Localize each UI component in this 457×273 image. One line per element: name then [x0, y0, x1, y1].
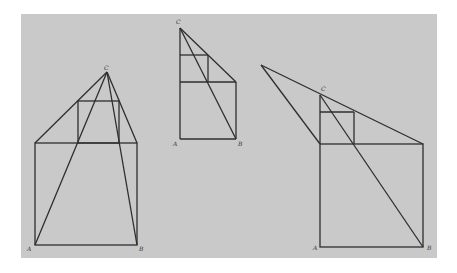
right-line-c-b	[320, 95, 423, 247]
left-figure: C A B	[26, 64, 144, 252]
left-label-a: A	[26, 245, 32, 252]
left-line-c-bigtl	[35, 72, 107, 143]
left-label-b: B	[138, 245, 144, 252]
middle-figure: C A B	[172, 18, 243, 147]
middle-label-a: A	[172, 140, 178, 147]
middle-label-c: C	[176, 18, 181, 25]
right-figure: C A B	[261, 65, 432, 251]
left-line-c-b	[107, 72, 137, 245]
right-label-b: B	[426, 244, 432, 251]
right-big-square	[320, 144, 423, 247]
left-line-c-a	[35, 72, 107, 245]
right-label-a: A	[312, 244, 318, 251]
right-line-p-bigtr	[261, 65, 423, 144]
left-line-c-bigtr	[107, 72, 137, 143]
middle-line-c-b	[180, 28, 236, 139]
middle-label-b: B	[237, 140, 243, 147]
right-label-c: C	[321, 85, 326, 92]
right-line-p-bigtl	[261, 65, 320, 144]
left-label-c: C	[104, 64, 109, 71]
geometry-diagram: C A B C A B C A B	[0, 0, 457, 273]
